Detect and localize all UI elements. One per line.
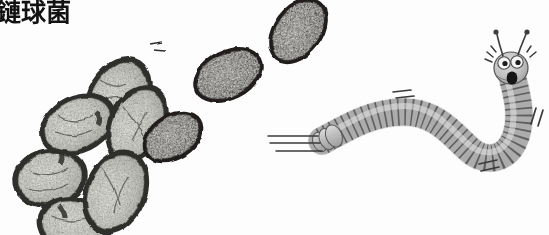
worm-eye-left <box>498 57 510 69</box>
figure-canvas: 鏈球菌 <box>0 0 549 235</box>
figure-caption: 鏈球菌 <box>0 0 71 27</box>
worm-eye-right <box>511 56 523 68</box>
worm-head <box>493 29 529 84</box>
worm-body <box>310 76 519 158</box>
top-speed-lines <box>393 90 414 98</box>
worm-mouth <box>507 71 518 84</box>
antenna-left-icon <box>493 29 503 56</box>
worm-layer <box>0 0 549 235</box>
